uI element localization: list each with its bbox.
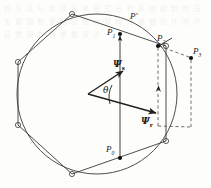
point-p0-dot: [118, 156, 122, 160]
label-psi-s: Ψs: [113, 59, 125, 72]
dashed-bottom-connector: [158, 126, 191, 127]
label-psi-r: Ψr: [141, 116, 153, 129]
label-p2: P2: [157, 34, 165, 45]
flux-circle: [17, 14, 177, 174]
hexagon-vertex-markers: [15, 11, 168, 176]
point-markers: [118, 32, 193, 160]
label-p0: P0: [106, 145, 114, 156]
label-p1: P1: [107, 28, 115, 39]
label-p-prime: P′: [130, 12, 137, 21]
point-p1-dot: [118, 32, 122, 36]
label-theta: θ: [103, 86, 108, 95]
psi-r-vector: [88, 94, 156, 113]
label-p3: P3: [193, 47, 201, 58]
